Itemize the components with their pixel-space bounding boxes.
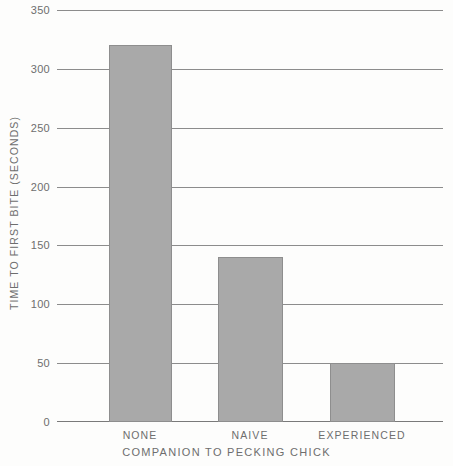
x-tick-label-none: NONE	[123, 429, 158, 441]
y-tick-label: 50	[16, 357, 50, 369]
y-tick-label: 0	[16, 416, 50, 428]
gridline-350	[57, 10, 443, 11]
x-tick-label-naive: NAIVE	[231, 429, 268, 441]
y-tick-label: 200	[16, 181, 50, 193]
y-tick-label: 350	[16, 4, 50, 16]
y-tick-label: 150	[16, 239, 50, 251]
y-axis-title: TIME TO FIRST BITE (SECONDS)	[8, 103, 20, 323]
bar-none	[109, 45, 172, 422]
y-tick-label: 100	[16, 298, 50, 310]
bar-chart: 350 300 250 200 150 100 50 0 NONE NAIVE …	[0, 0, 453, 466]
bar-experienced	[330, 363, 395, 422]
y-tick-label: 250	[16, 122, 50, 134]
bar-naive	[218, 257, 283, 422]
x-axis-tick-labels: NONE NAIVE EXPERIENCED	[0, 429, 453, 445]
x-axis-title: COMPANION TO PECKING CHICK	[0, 446, 453, 458]
y-tick-label: 300	[16, 63, 50, 75]
plot-area	[57, 10, 443, 422]
x-tick-label-experienced: EXPERIENCED	[318, 429, 405, 441]
